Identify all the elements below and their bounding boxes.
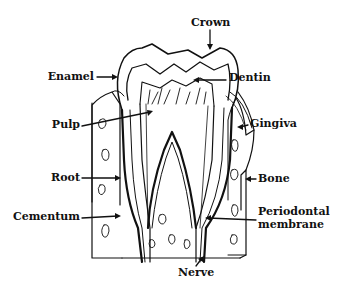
tooth-diagram: [0, 0, 339, 295]
label-pulp: Pulp: [30, 119, 80, 131]
label-bone: Bone: [258, 173, 290, 185]
label-crown: Crown: [191, 17, 230, 29]
label-periodontal-membrane-line1: Periodontal: [258, 206, 330, 218]
bone-block: [92, 92, 254, 258]
label-cementum: Cementum: [10, 211, 80, 223]
label-nerve: Nerve: [178, 267, 214, 279]
label-gingiva: Gingiva: [250, 118, 297, 130]
label-root: Root: [30, 172, 80, 184]
label-dentin: Dentin: [229, 72, 271, 84]
tooth-outline: [117, 44, 238, 262]
label-periodontal-membrane-line2: membrane: [258, 219, 324, 231]
label-enamel: Enamel: [28, 71, 94, 83]
